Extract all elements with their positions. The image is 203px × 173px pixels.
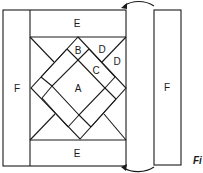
corner-line-br [104, 114, 126, 140]
label-center-square: A [75, 83, 82, 94]
label-top-border: E [74, 18, 81, 29]
figure-caption: Fi [193, 155, 202, 166]
label-outer-triangle-1: D [98, 44, 105, 55]
corner-line-bl [30, 114, 55, 140]
b-square-b-edge [68, 115, 79, 127]
arrow-bottom-head-icon [121, 164, 127, 171]
arrow-top-head-icon [121, 3, 127, 9]
rail-bl-outer [42, 98, 68, 127]
arrow-bottom-curve [124, 167, 154, 172]
corner-line-tl [30, 37, 54, 62]
assembled-block-outline [3, 10, 126, 166]
rail-br-outer [91, 99, 116, 127]
b-square-l-edge [41, 77, 52, 86]
b-square-r-edge [105, 77, 115, 88]
label-corner-triangle: B [75, 45, 82, 56]
b-square-bl-edge [42, 86, 52, 98]
arrow-top-curve [124, 2, 154, 7]
label-right-border: F [164, 82, 170, 93]
b-square-br-edge [105, 88, 116, 99]
label-bottom-border: E [74, 148, 81, 159]
label-left-border: F [14, 83, 20, 94]
quilt-diagram: E E F F A B C D D Fi [0, 0, 203, 173]
label-side-rectangle: C [92, 65, 99, 76]
b-square-b2-edge [79, 115, 91, 127]
label-outer-triangle-2: D [113, 56, 120, 67]
